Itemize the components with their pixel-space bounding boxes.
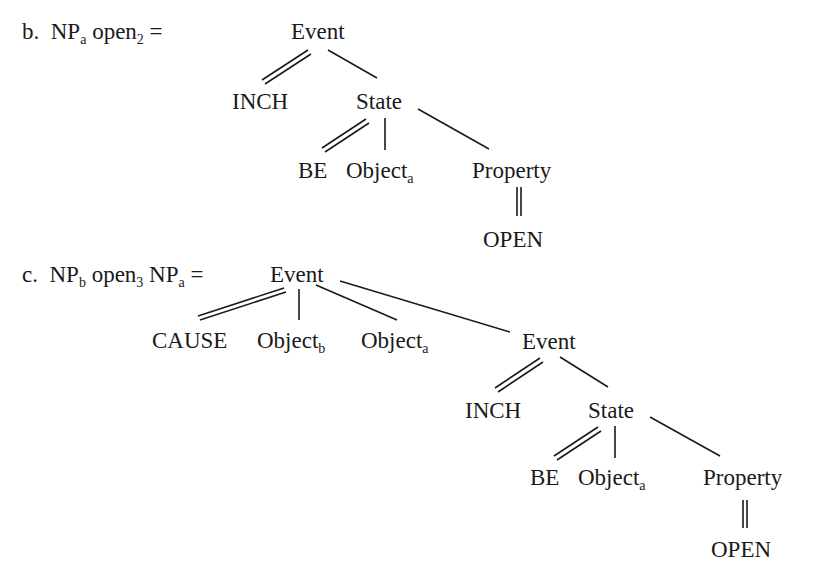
- tree-branches: [0, 0, 830, 576]
- branches-b: [262, 50, 521, 216]
- branches-c: [198, 281, 747, 528]
